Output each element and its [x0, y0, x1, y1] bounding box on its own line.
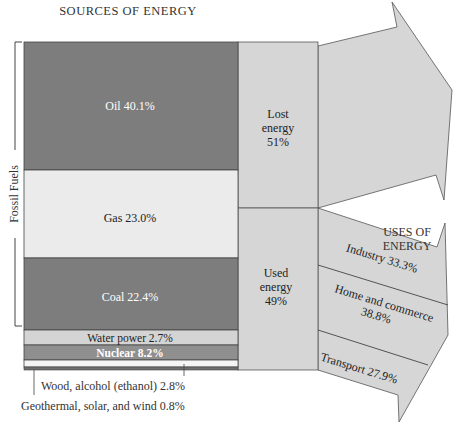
sources-title: SOURCES OF ENERGY: [59, 4, 197, 18]
wood-label: Wood, alcohol (ethanol) 2.8%: [41, 379, 185, 393]
uses-title-2: ENERGY: [383, 239, 432, 253]
coal-label: Coal 22.4%: [102, 290, 159, 304]
nuclear-label: Nuclear 8.2%: [96, 347, 164, 359]
used-label-3: 49%: [265, 294, 287, 308]
oil-label: Oil 40.1%: [105, 99, 154, 113]
source-wood: [24, 360, 238, 367]
lost-label-3: 51%: [267, 135, 289, 149]
used-label-1: Used: [264, 266, 289, 280]
energy-flow-diagram: SOURCES OF ENERGY Fossil Fuels Oil 40.1%…: [0, 0, 457, 429]
lost-label-1: Lost: [267, 107, 289, 121]
fossil-fuels-label: Fossil Fuels: [7, 165, 21, 223]
geothermal-label: Geothermal, solar, and wind 0.8%: [21, 399, 185, 413]
used-label-2: energy: [260, 280, 292, 294]
lost-energy-arrow: [318, 2, 452, 208]
lost-label-2: energy: [262, 121, 294, 135]
uses-title-1: USES OF: [383, 225, 431, 239]
fossil-fuels-bracket: Fossil Fuels: [6, 42, 24, 326]
gas-label: Gas 23.0%: [104, 211, 157, 225]
source-geothermal: [24, 367, 238, 370]
water-label: Water power 2.7%: [87, 332, 173, 345]
